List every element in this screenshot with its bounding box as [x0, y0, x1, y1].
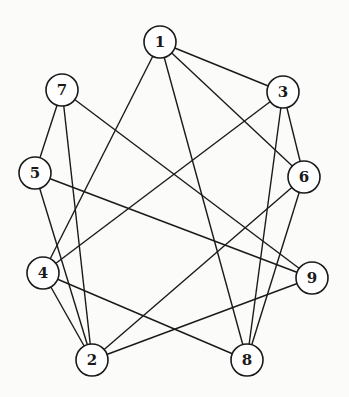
node-2: 2 [76, 344, 108, 376]
node-7: 7 [46, 74, 78, 106]
edge-6-2 [92, 177, 304, 360]
edge-7-2 [62, 90, 92, 360]
edge-4-8 [43, 273, 247, 360]
edge-9-2 [92, 278, 312, 360]
node-label: 2 [87, 351, 97, 369]
edge-1-3 [160, 42, 283, 92]
node-8: 8 [231, 344, 263, 376]
edge-1-8 [160, 42, 247, 360]
edge-1-6 [160, 42, 304, 177]
node-5: 5 [19, 157, 51, 189]
edge-6-8 [247, 177, 304, 360]
graph-canvas: 123456789 [0, 0, 349, 397]
node-label: 3 [278, 83, 288, 101]
node-label: 1 [155, 33, 165, 51]
node-9: 9 [296, 262, 328, 294]
node-label: 5 [30, 164, 40, 182]
node-label: 7 [57, 81, 67, 99]
edge-7-9 [62, 90, 312, 278]
node-6: 6 [288, 161, 320, 193]
node-1: 1 [144, 26, 176, 58]
edge-3-8 [247, 92, 283, 360]
node-4: 4 [27, 257, 59, 289]
node-label: 8 [242, 351, 252, 369]
node-label: 4 [38, 264, 48, 282]
node-3: 3 [267, 76, 299, 108]
node-layer: 123456789 [19, 26, 328, 376]
node-label: 9 [307, 269, 317, 287]
node-label: 6 [299, 168, 309, 186]
edge-3-4 [43, 92, 283, 273]
